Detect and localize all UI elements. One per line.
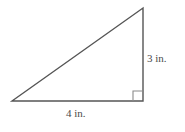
triangle-figure: 3 in. 4 in. [0,0,185,132]
triangle-drawing [0,0,185,132]
vertical-side-label: 3 in. [147,52,167,65]
horizontal-side-label: 4 in. [66,107,86,120]
triangle-outline [12,8,143,101]
